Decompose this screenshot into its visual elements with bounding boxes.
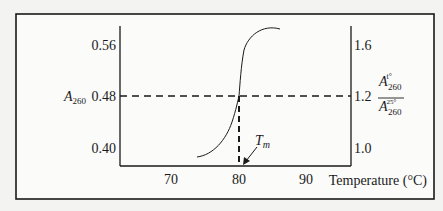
x-tick-90: 90 [299, 172, 313, 187]
y-left-tick-048: 0.48 [92, 89, 117, 104]
y-right-tick-10: 1.0 [354, 141, 372, 156]
y-left-tick-056: 0.56 [92, 38, 117, 53]
y-left-tick-040: 0.40 [92, 141, 117, 156]
y-right-tick-16: 1.6 [354, 38, 372, 53]
x-tick-80: 80 [232, 172, 246, 187]
x-tick-70: 70 [164, 172, 178, 187]
x-axis-title: Temperature (°C) [329, 173, 428, 189]
chart-figure: Tm 0.56 0.48 0.40 A260 1.6 1.2 1.0 At°26… [0, 0, 443, 211]
y-right-tick-12: 1.2 [354, 89, 372, 104]
